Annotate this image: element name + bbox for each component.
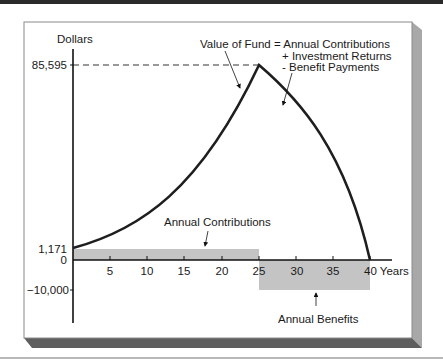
benefits-label: Annual Benefits bbox=[278, 313, 359, 325]
x-label-40-years: 40 Years bbox=[364, 265, 409, 277]
y-label-zero: 0 bbox=[61, 254, 67, 266]
y-label-peak: 85,595 bbox=[32, 59, 67, 71]
x-label-20: 20 bbox=[216, 265, 229, 277]
contributions-label: Annual Contributions bbox=[164, 216, 271, 228]
x-label-5: 5 bbox=[107, 265, 113, 277]
bottom-divider bbox=[0, 357, 443, 359]
x-label-35: 35 bbox=[327, 265, 340, 277]
benefits-band bbox=[259, 260, 370, 290]
x-label-15: 15 bbox=[178, 265, 191, 277]
formula-line-1: Value of Fund = Annual Contributions bbox=[200, 38, 390, 50]
formula-line-3: - Benefit Payments bbox=[282, 61, 379, 73]
x-label-25: 25 bbox=[253, 265, 266, 277]
y-axis-label: Dollars bbox=[57, 33, 93, 45]
frame-bottom-edge bbox=[24, 338, 422, 348]
contributions-band bbox=[73, 249, 259, 260]
x-label-10: 10 bbox=[141, 265, 154, 277]
frame-right-edge bbox=[412, 22, 422, 348]
y-label-negative: −10,000 bbox=[27, 284, 69, 296]
chart: Dollars 85,595 1,171 0 −10,000 5 10 15 2… bbox=[0, 0, 443, 361]
x-label-30: 30 bbox=[291, 265, 304, 277]
